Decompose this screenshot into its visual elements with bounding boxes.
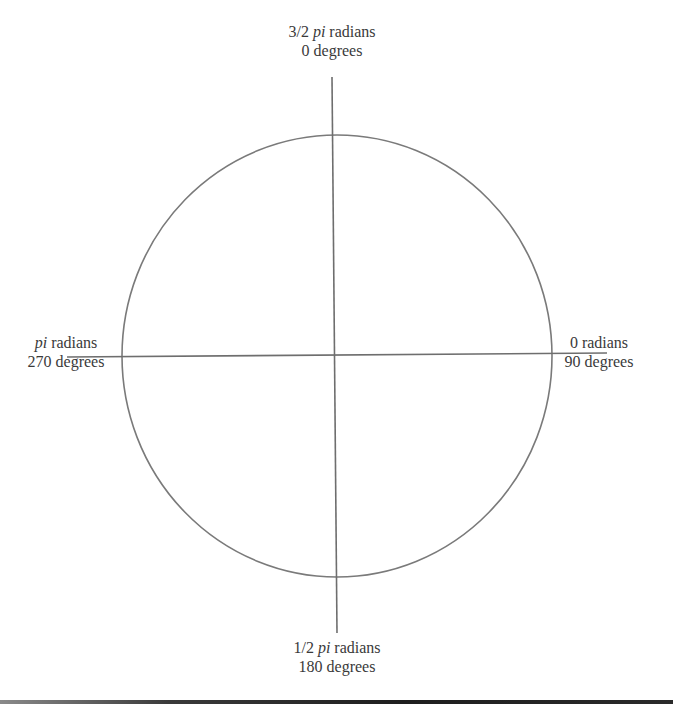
top-radians-pi: pi	[313, 23, 325, 40]
bottom-radians-prefix: 1/2	[293, 639, 313, 656]
left-radians-pi: pi	[35, 334, 47, 351]
right-radians-suffix: radians	[582, 334, 628, 351]
label-top: 3/2 pi radians 0 degrees	[262, 22, 402, 60]
bottom-edge-bar	[0, 700, 673, 704]
left-radians-label: pi radians	[8, 333, 124, 352]
label-bottom: 1/2 pi radians 180 degrees	[267, 638, 407, 676]
top-degrees-label: 0 degrees	[262, 41, 402, 60]
left-degrees-label: 270 degrees	[8, 352, 124, 371]
label-right: 0 radians 90 degrees	[553, 333, 645, 371]
right-radians-prefix: 0	[570, 334, 578, 351]
right-degrees-label: 90 degrees	[553, 352, 645, 371]
left-radians-suffix: radians	[51, 334, 97, 351]
bottom-radians-suffix: radians	[334, 639, 380, 656]
horizontal-axis	[67, 353, 607, 357]
bottom-radians-pi: pi	[318, 639, 330, 656]
top-radians-suffix: radians	[329, 23, 375, 40]
bottom-degrees-label: 180 degrees	[267, 657, 407, 676]
label-left: pi radians 270 degrees	[8, 333, 124, 371]
bottom-radians-label: 1/2 pi radians	[267, 638, 407, 657]
right-radians-label: 0 radians	[553, 333, 645, 352]
top-radians-prefix: 3/2	[288, 23, 308, 40]
top-radians-label: 3/2 pi radians	[262, 22, 402, 41]
